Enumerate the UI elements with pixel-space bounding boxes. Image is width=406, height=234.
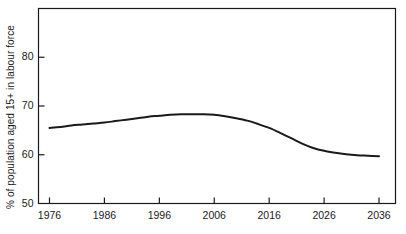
x-tick-label: 2016: [249, 209, 289, 221]
x-tick-label: 2006: [194, 209, 234, 221]
plot-frame: [39, 9, 396, 204]
y-tick-label: 60: [12, 148, 34, 160]
data-line-series: [49, 114, 379, 156]
y-tick-label: 80: [12, 50, 34, 62]
y-tick-label: 50: [12, 197, 34, 209]
plot-area: [0, 0, 406, 234]
y-tick-label: 70: [12, 99, 34, 111]
x-tick-label: 1996: [139, 209, 179, 221]
x-tick-label: 2036: [359, 209, 399, 221]
x-tick-label: 2026: [304, 209, 344, 221]
x-tick-label: 1976: [29, 209, 69, 221]
chart-container: % of population aged 15+ in labour force…: [0, 0, 406, 234]
x-tick-label: 1986: [84, 209, 124, 221]
